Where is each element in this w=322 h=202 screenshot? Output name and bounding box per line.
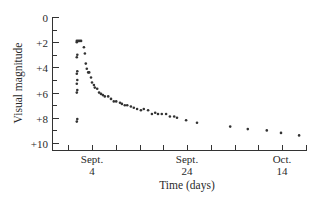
x-tick-label-day: 24 — [182, 165, 194, 177]
data-point — [133, 106, 136, 109]
x-axis-title: Time (days) — [159, 179, 215, 192]
y-tick-label: +8 — [36, 113, 48, 125]
data-point — [161, 113, 164, 116]
y-tick-label: +6 — [36, 88, 48, 100]
x-tick-label-day: 4 — [89, 165, 95, 177]
data-point — [185, 119, 188, 122]
y-tick-label: +4 — [36, 62, 48, 74]
data-point — [76, 89, 79, 92]
data-point — [247, 128, 250, 131]
data-point — [90, 76, 93, 79]
data-point — [143, 108, 146, 111]
data-point — [266, 129, 269, 132]
data-point — [107, 95, 110, 98]
data-point — [104, 95, 107, 98]
data-point — [88, 71, 91, 74]
data-point — [94, 86, 97, 89]
data-point — [76, 120, 79, 123]
data-point — [84, 52, 87, 55]
data-point — [126, 104, 129, 107]
data-point — [80, 40, 83, 43]
data-point — [151, 113, 154, 116]
data-point — [229, 125, 232, 128]
data-point — [110, 98, 113, 101]
data-point — [76, 118, 79, 121]
data-point — [140, 109, 143, 112]
data-point — [91, 81, 94, 84]
data-point — [76, 91, 79, 94]
data-point — [130, 105, 133, 108]
data-point — [154, 112, 157, 115]
data-point — [76, 72, 79, 75]
data-point — [76, 83, 79, 86]
data-point — [173, 115, 176, 118]
data-point — [86, 67, 89, 70]
data-point — [176, 117, 179, 120]
data-point — [147, 109, 150, 112]
data-point — [121, 103, 124, 106]
data-point — [280, 132, 283, 135]
x-ticks: Sept.4Sept.24Oct.14 — [69, 145, 307, 177]
x-tick-label-month: Oct. — [273, 153, 292, 165]
x-tick-label-month: Sept. — [81, 153, 104, 165]
data-point — [76, 54, 79, 57]
y-axis-title: Visual magnitude — [12, 43, 25, 124]
x-axis: Sept.4Sept.24Oct.14 Time (days) — [53, 145, 308, 192]
data-point — [96, 88, 99, 91]
y-tick-label: +2 — [36, 37, 48, 49]
data-point — [165, 113, 168, 116]
data-point — [136, 108, 139, 111]
y-ticks: 0+2+4+6+8+10 — [31, 12, 59, 150]
data-point — [124, 104, 127, 107]
x-tick-label-day: 14 — [277, 165, 289, 177]
x-tick-label-month: Sept. — [176, 153, 199, 165]
data-point — [83, 46, 86, 49]
data-point — [113, 100, 116, 103]
y-tick-label: +10 — [31, 138, 49, 150]
data-points — [76, 40, 301, 137]
data-point — [76, 70, 79, 73]
data-point — [169, 115, 172, 118]
y-tick-label: 0 — [43, 12, 49, 24]
data-point — [76, 56, 79, 59]
data-point — [196, 122, 199, 125]
data-point — [76, 79, 79, 82]
data-point — [157, 113, 160, 116]
data-point — [85, 62, 88, 65]
data-point — [115, 100, 118, 103]
data-point — [93, 84, 96, 87]
light-curve-chart: 0+2+4+6+8+10 Visual magnitude Sept.4Sept… — [0, 0, 322, 202]
data-point — [298, 134, 301, 137]
y-axis: 0+2+4+6+8+10 Visual magnitude — [12, 12, 59, 151]
